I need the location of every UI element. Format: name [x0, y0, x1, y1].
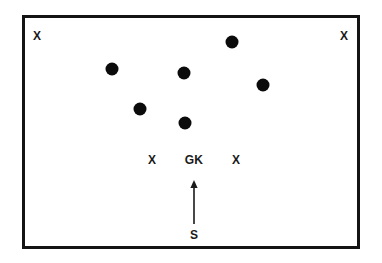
wall-marker-right: X: [232, 154, 240, 166]
corner-marker-top-right: X: [340, 30, 348, 42]
goalkeeper-marker: GK: [185, 154, 203, 166]
player-dot-2: [178, 67, 191, 80]
player-dot-1: [106, 63, 119, 76]
player-dot-6: [179, 117, 192, 130]
player-dot-5: [134, 103, 147, 116]
player-dot-3: [226, 36, 239, 49]
pitch-boundary: [22, 15, 360, 249]
shot-origin-label: S: [190, 229, 198, 241]
corner-marker-top-left: X: [33, 30, 41, 42]
wall-marker-left: X: [148, 154, 156, 166]
player-dot-4: [257, 79, 270, 92]
diagram-canvas: X X X GK X S: [0, 0, 382, 263]
